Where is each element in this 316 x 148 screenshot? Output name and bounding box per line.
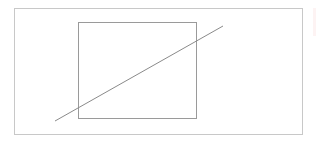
inner-rectangle xyxy=(79,23,197,119)
edge-strip xyxy=(313,8,316,36)
diagram-canvas xyxy=(0,0,316,148)
diagonal-line xyxy=(55,26,223,121)
outer-rectangle xyxy=(15,9,303,135)
